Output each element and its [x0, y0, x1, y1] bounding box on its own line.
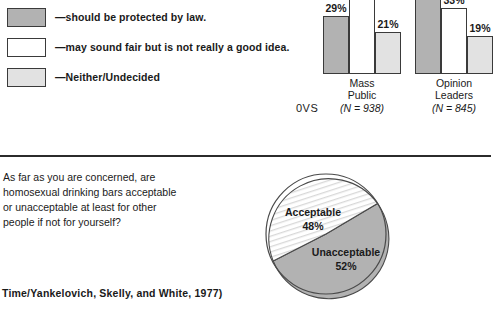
- legend: —should be protected by law. —may sound …: [0, 2, 265, 92]
- bar-group-caption: Opinion Leaders (N = 845): [415, 77, 493, 115]
- bar-rect: [323, 16, 349, 74]
- survey-question-line2: homosexual drinking bars acceptable: [3, 185, 218, 200]
- pie-chart-svg: Acceptable 48% Unacceptable 52%: [258, 166, 398, 306]
- bar-group-sample-size: (N = 845): [415, 102, 493, 115]
- legend-item-label: —should be protected by law.: [55, 12, 206, 23]
- bar-group-sample-size: (N = 938): [323, 102, 401, 115]
- bar-group-container: 29% 51% 21% Mass Public (N = 938): [323, 14, 493, 114]
- survey-question-line1: As far as you are concerned, are: [3, 170, 218, 185]
- bar-group-opinion-leaders: 49% 33% 19% Opinion Leaders (N = 845): [415, 0, 493, 114]
- survey-question-line4: people if not for yourself?: [3, 215, 218, 230]
- legend-item: —may sound fair but is not really a good…: [0, 32, 265, 62]
- bar-chart: 0VS 29% 51% 21% Mass Public: [296, 14, 491, 154]
- legend-item-label: —may sound fair but is not really a good…: [55, 42, 289, 53]
- pie-label-unacceptable: Unacceptable: [312, 246, 380, 258]
- legend-swatch-white: [7, 38, 46, 57]
- bar-rect: [375, 32, 401, 74]
- bar-rect: [467, 36, 493, 74]
- bar-wrap: 29%: [323, 0, 349, 74]
- bar-value-label: 19%: [469, 23, 490, 34]
- bar-group-mass-public: 29% 51% 21% Mass Public (N = 938): [323, 0, 401, 114]
- bar-group-caption-line2: Public: [323, 89, 401, 102]
- bar-group-bars: 29% 51% 21%: [323, 0, 401, 74]
- survey-question-line3: or unacceptable at least for other: [3, 200, 218, 215]
- section-divider: [0, 155, 491, 157]
- bar-wrap: 49%: [415, 0, 441, 74]
- bar-rect: [441, 8, 467, 74]
- bar-value-label: 21%: [377, 19, 398, 30]
- legend-swatch-dark: [7, 8, 46, 27]
- bar-group-caption: Mass Public (N = 938): [323, 77, 401, 115]
- survey-question: As far as you are concerned, are homosex…: [3, 170, 218, 230]
- pie-label-acceptable: Acceptable: [285, 206, 341, 218]
- bar-value-label: 29%: [325, 3, 346, 14]
- pie-value-unacceptable: 52%: [335, 260, 357, 272]
- bar-group-caption-line1: Mass: [323, 77, 401, 90]
- legend-swatch-light: [7, 68, 46, 87]
- bar-group-caption-line1: Opinion: [415, 77, 493, 90]
- bar-wrap: 19%: [467, 0, 493, 74]
- source-attribution: Time/Yankelovich, Skelly, and White, 197…: [2, 287, 222, 299]
- legend-item-label: —Neither/Undecided: [55, 72, 160, 83]
- bar-rect: [349, 0, 375, 74]
- bar-wrap: 21%: [375, 0, 401, 74]
- bar-wrap: 51%: [349, 0, 375, 74]
- pie-value-acceptable: 48%: [302, 220, 324, 232]
- bar-axis-origin-label: 0VS: [296, 102, 318, 114]
- legend-item: —should be protected by law.: [0, 2, 265, 32]
- legend-item: —Neither/Undecided: [0, 62, 265, 92]
- pie-chart: Acceptable 48% Unacceptable 52%: [258, 166, 398, 310]
- bar-rect: [415, 0, 441, 74]
- bar-wrap: 33%: [441, 0, 467, 74]
- bar-group-bars: 49% 33% 19%: [415, 0, 493, 74]
- bar-group-caption-line2: Leaders: [415, 89, 493, 102]
- bar-value-label: 33%: [443, 0, 464, 6]
